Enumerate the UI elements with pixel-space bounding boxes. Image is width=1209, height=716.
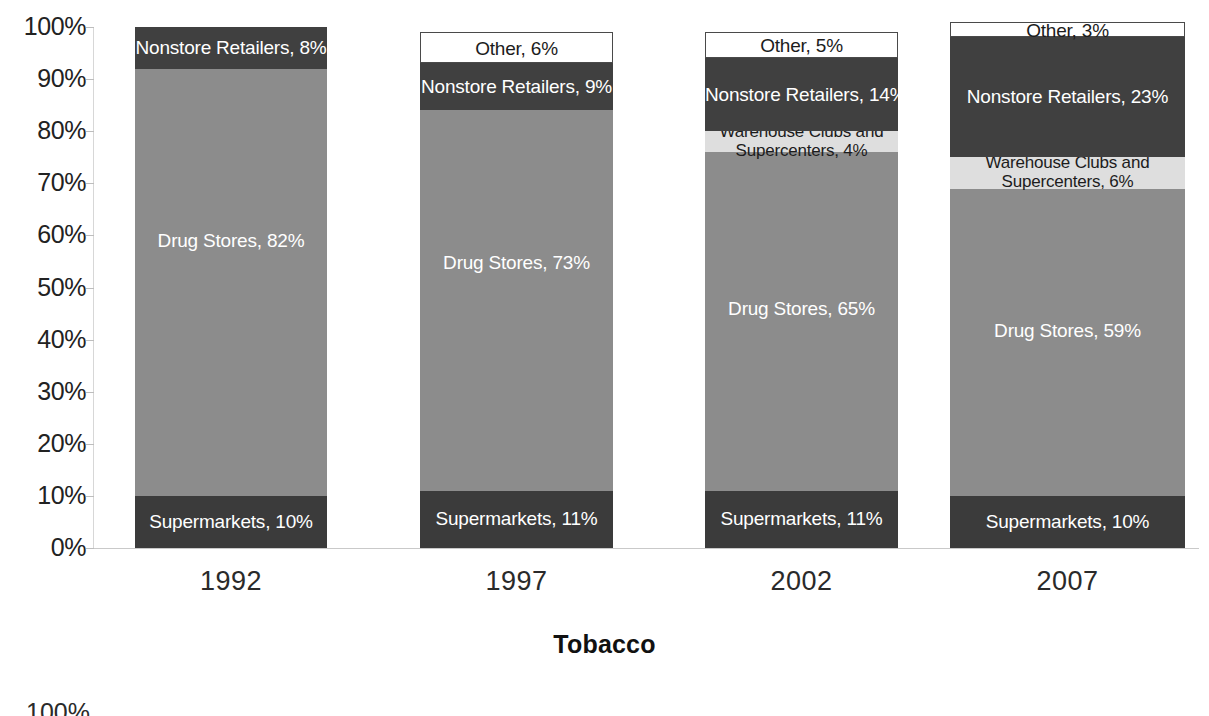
bar-group-1992[interactable]: Supermarkets, 10%Drug Stores, 82%Nonstor…	[135, 0, 327, 560]
next-chart-axis-label-bleed: 100%	[0, 700, 90, 716]
y-axis-tick-mark	[86, 235, 94, 236]
x-axis-category-label-2007: 2007	[950, 566, 1185, 596]
y-axis-tick-mark	[86, 131, 94, 132]
bar-segment-label: Supermarkets, 10%	[135, 511, 327, 532]
bar-segment-nonstore-retailers[interactable]: Nonstore Retailers, 23%	[950, 37, 1185, 157]
y-axis-tick-mark	[86, 183, 94, 184]
bar-segment-label: Drug Stores, 65%	[705, 298, 898, 319]
bar-group-2007[interactable]: Supermarkets, 10%Drug Stores, 59%Warehou…	[950, 0, 1185, 560]
y-axis-tick-mark	[86, 392, 94, 393]
bar-segment-label: Supermarkets, 11%	[420, 508, 613, 529]
bar-segment-label: Nonstore Retailers, 8%	[135, 37, 327, 58]
bar-stack: Supermarkets, 11%Drug Stores, 73%Nonstor…	[420, 0, 613, 560]
bar-segment-other[interactable]: Other, 3%	[950, 22, 1185, 38]
bar-segment-nonstore-retailers[interactable]: Nonstore Retailers, 9%	[420, 63, 613, 110]
bar-segment-label: Nonstore Retailers, 9%	[420, 76, 613, 97]
bar-segment-nonstore-retailers[interactable]: Nonstore Retailers, 14%	[705, 58, 898, 131]
y-axis-tick-mark	[86, 340, 94, 341]
bar-group-2002[interactable]: Supermarkets, 11%Drug Stores, 65%Warehou…	[705, 0, 898, 560]
bar-segment-label: Supermarkets, 11%	[705, 508, 898, 529]
bar-segment-label: Drug Stores, 59%	[950, 320, 1185, 341]
bar-segment-label: Other, 5%	[706, 35, 897, 56]
bar-segment-other[interactable]: Other, 6%	[420, 32, 613, 63]
bar-segment-label: Drug Stores, 73%	[420, 252, 613, 273]
y-axis-tick-mark	[86, 79, 94, 80]
bar-segment-drug-stores[interactable]: Drug Stores, 59%	[950, 189, 1185, 496]
bar-segment-label: Warehouse Clubs and Supercenters, 6%	[950, 153, 1185, 191]
bar-stack: Supermarkets, 11%Drug Stores, 65%Warehou…	[705, 0, 898, 560]
bar-segment-warehouse-clubs-and-supercenters[interactable]: Warehouse Clubs and Supercenters, 6%	[950, 157, 1185, 188]
x-axis-category-label-1992: 1992	[135, 566, 327, 596]
bar-segment-drug-stores[interactable]: Drug Stores, 73%	[420, 110, 613, 490]
bar-segment-label: Drug Stores, 82%	[135, 230, 327, 251]
y-axis-tick-mark	[86, 496, 94, 497]
bar-stack: Supermarkets, 10%Drug Stores, 59%Warehou…	[950, 0, 1185, 560]
plot-area: Supermarkets, 10%Drug Stores, 82%Nonstor…	[0, 0, 1209, 560]
bar-stack: Supermarkets, 10%Drug Stores, 82%Nonstor…	[135, 0, 327, 560]
stacked-bar-chart: 0%10%20%30%40%50%60%70%80%90%100% Superm…	[0, 0, 1209, 716]
bar-segment-label: Other, 6%	[421, 38, 612, 59]
bar-segment-drug-stores[interactable]: Drug Stores, 82%	[135, 69, 327, 496]
chart-title: Tobacco	[0, 630, 1209, 659]
bar-segment-drug-stores[interactable]: Drug Stores, 65%	[705, 152, 898, 491]
y-axis-tick-mark	[86, 288, 94, 289]
bar-segment-other[interactable]: Other, 5%	[705, 32, 898, 58]
bar-segment-label: Supermarkets, 10%	[950, 511, 1185, 532]
x-axis-category-label-2002: 2002	[705, 566, 898, 596]
x-axis-category-label-1997: 1997	[420, 566, 613, 596]
y-axis-tick-mark	[86, 548, 94, 549]
bar-segment-nonstore-retailers[interactable]: Nonstore Retailers, 8%	[135, 27, 327, 69]
bar-segment-label: Nonstore Retailers, 23%	[950, 86, 1185, 107]
bar-segment-warehouse-clubs-and-supercenters[interactable]: Warehouse Clubs and Supercenters, 4%	[705, 131, 898, 152]
bar-group-1997[interactable]: Supermarkets, 11%Drug Stores, 73%Nonstor…	[420, 0, 613, 560]
y-axis-tick-mark	[86, 444, 94, 445]
y-axis-tick-mark	[86, 27, 94, 28]
bar-segment-supermarkets[interactable]: Supermarkets, 10%	[135, 496, 327, 548]
bar-segment-label: Nonstore Retailers, 14%	[705, 84, 898, 105]
bar-segment-supermarkets[interactable]: Supermarkets, 11%	[705, 491, 898, 548]
bar-segment-supermarkets[interactable]: Supermarkets, 11%	[420, 491, 613, 548]
bar-segment-supermarkets[interactable]: Supermarkets, 10%	[950, 496, 1185, 548]
